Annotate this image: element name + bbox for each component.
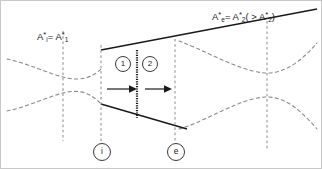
nozzle-lower-solid-wall — [101, 104, 187, 129]
station-marker-e: e — [167, 143, 185, 161]
flow-arrow-region-2 — [145, 85, 172, 93]
region-marker-2: 2 — [142, 56, 158, 72]
duct-upper-dashed-wall — [7, 59, 101, 79]
exit-area-label: A*e= A*2( > A*2) — [212, 11, 275, 23]
region-marker-1: 1 — [115, 56, 131, 72]
duct-lower-dashed-wall-right — [179, 97, 317, 129]
exit-area-paren-open: ( > A — [245, 11, 265, 22]
exit-area-paren-close: ) — [272, 11, 275, 22]
inlet-area-sub2: 1 — [65, 36, 69, 43]
station-marker-i: i — [93, 143, 111, 161]
inlet-area-eq: = A — [48, 31, 62, 42]
nozzle-upper-solid-wall — [101, 9, 317, 50]
duct-lower-dashed-wall — [7, 91, 101, 111]
diagram-canvas — [1, 1, 322, 169]
exit-area-eq: = A — [225, 11, 239, 22]
inlet-area-label: A*i= A*1 — [37, 31, 68, 43]
flow-arrow-region-1 — [107, 85, 137, 93]
nozzle-flow-diagram: A*i= A*1 A*e= A*2( > A*2) 1 2 i e — [0, 0, 322, 169]
duct-upper-dashed-wall-right — [179, 41, 317, 73]
